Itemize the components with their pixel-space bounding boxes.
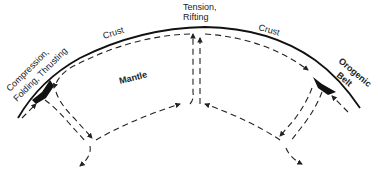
tension-label-line1: Tension, [183,2,217,12]
crust-line [18,27,360,118]
crust-label-left: Crust [102,25,126,41]
convection-diagram: Tension, Rifting Crust Crust Mantle Comp… [0,0,378,171]
orogenic-belt-wedge [313,77,336,95]
mantle-label: Mantle [118,69,148,86]
tension-label-line2: Rifting [183,12,209,22]
right-convection-cell [200,34,348,164]
